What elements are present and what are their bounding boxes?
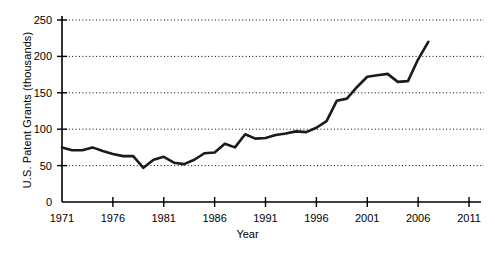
y-axis-title: U.S. Patent Grants (thousands) — [21, 15, 33, 205]
x-axis-tick-label: 2011 — [457, 212, 481, 224]
x-axis-group: 197119761981198619911996200120062011 — [50, 197, 481, 224]
x-axis-title: Year — [0, 228, 495, 240]
y-axis-tick-label: 0 — [46, 196, 52, 208]
y-axis-tick-label: 150 — [34, 87, 52, 99]
x-axis-tick-label: 1971 — [50, 212, 74, 224]
y-axis-group: 050100150200250 — [34, 14, 67, 208]
x-axis-tick-label: 1976 — [101, 212, 125, 224]
y-axis-tick-label: 100 — [34, 123, 52, 135]
x-axis-tick-label: 1986 — [202, 212, 226, 224]
chart-plot-area: 050100150200250 197119761981198619911996… — [0, 0, 495, 254]
gridlines-group — [62, 20, 484, 166]
x-axis-tick-label: 2001 — [355, 212, 379, 224]
y-axis-tick-label: 200 — [34, 50, 52, 62]
x-axis-tick-label: 1991 — [253, 212, 277, 224]
data-line-series — [62, 42, 428, 168]
patent-grants-line-chart: 050100150200250 197119761981198619911996… — [0, 0, 495, 254]
y-axis-tick-label: 50 — [40, 160, 52, 172]
x-axis-tick-label: 1996 — [304, 212, 328, 224]
x-axis-tick-label: 2006 — [406, 212, 430, 224]
x-axis-tick-label: 1981 — [152, 212, 176, 224]
y-axis-tick-label: 250 — [34, 14, 52, 26]
